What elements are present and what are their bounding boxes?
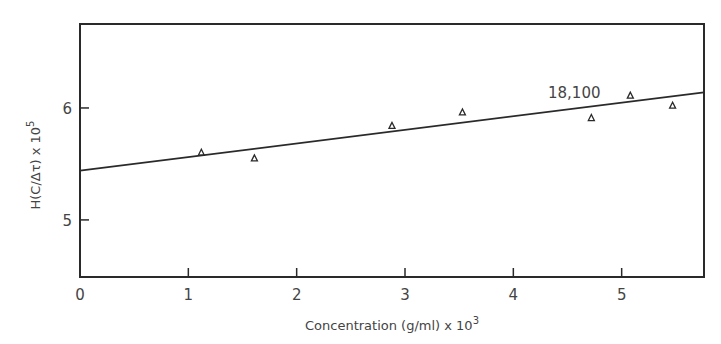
y-axis-label: H(C/Δτ) x 105 — [25, 121, 43, 210]
chart: 01234556Concentration (g/ml) x 103H(C/Δτ… — [0, 0, 721, 344]
data-point-triangle — [627, 92, 633, 98]
y-tick-label: 5 — [62, 212, 72, 230]
x-tick-label: 0 — [75, 286, 85, 304]
x-tick-label: 4 — [509, 286, 519, 304]
data-point-triangle — [389, 122, 395, 128]
data-point-triangle — [670, 102, 676, 108]
x-tick-label: 3 — [400, 286, 410, 304]
x-tick-label: 1 — [184, 286, 194, 304]
x-axis-label: Concentration (g/ml) x 103 — [305, 315, 479, 333]
data-point-triangle — [251, 155, 257, 161]
line-annotation: 18,100 — [548, 84, 601, 102]
plot-frame — [80, 24, 704, 277]
fit-line — [80, 92, 704, 170]
x-tick-label: 5 — [617, 286, 627, 304]
y-tick-label: 6 — [62, 100, 72, 118]
x-tick-label: 2 — [292, 286, 302, 304]
data-point-triangle — [588, 115, 594, 121]
data-point-triangle — [459, 109, 465, 115]
